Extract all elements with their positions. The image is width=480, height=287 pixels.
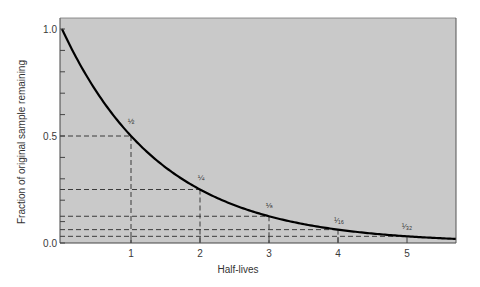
fraction-label: ¹⁄₃₂ [402, 222, 412, 231]
x-tick-label: 3 [266, 248, 272, 259]
y-tick-label: 0.0 [43, 238, 57, 249]
y-tick-label: 0.5 [43, 131, 57, 142]
y-tick-label: 1.0 [43, 24, 57, 35]
x-tick-label: 4 [335, 248, 341, 259]
y-axis-title: Fraction of original sample remaining [16, 60, 27, 224]
x-tick-label: 2 [197, 248, 203, 259]
x-axis-title: Half-lives [217, 264, 258, 275]
fraction-label: ½ [128, 117, 135, 126]
fraction-label: ¹⁄₁₆ [334, 216, 344, 225]
x-tick-label: 1 [128, 248, 134, 259]
half-life-decay-chart: 0.00.51.0 12345 ½¼⅛¹⁄₁₆¹⁄₃₂ Half-lives F… [0, 0, 480, 287]
fraction-label: ⅛ [266, 201, 273, 210]
plot-area [60, 18, 456, 243]
x-tick-label: 5 [404, 248, 410, 259]
plot-background [60, 18, 456, 243]
fraction-label: ¼ [198, 173, 205, 182]
